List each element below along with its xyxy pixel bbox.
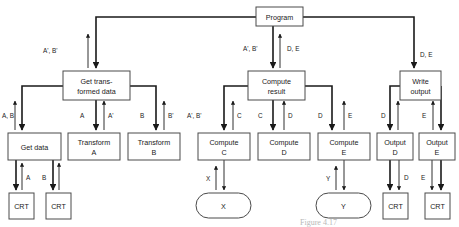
node-gettransformed[interactable]: Get trans- formed data xyxy=(63,71,130,100)
edge-label-computee-out: E xyxy=(348,112,352,119)
computeresult-label-line1: Compute xyxy=(262,77,291,86)
edge-label-outputd: D xyxy=(381,112,386,119)
node-ovaly[interactable]: Y xyxy=(316,193,371,218)
computed-label-line1: Compute xyxy=(269,138,298,147)
compute-oval-lines xyxy=(216,160,344,190)
edge-label-left-up: A', B' xyxy=(43,47,58,54)
edge-label-transa-out: A' xyxy=(108,112,113,119)
computec-label-line2: C xyxy=(221,148,226,157)
edge-label-computee-in: D xyxy=(318,112,323,119)
node-crt3[interactable]: CRT xyxy=(383,193,408,219)
node-computed[interactable]: Compute D xyxy=(258,133,310,160)
figure-caption: Figure 4.17 xyxy=(300,218,337,227)
ovaly-label: Y xyxy=(341,202,346,211)
node-program[interactable]: Program xyxy=(256,7,303,26)
edge-label-crt1: A xyxy=(26,174,31,181)
node-crt4[interactable]: CRT xyxy=(425,193,450,219)
edge-program-to-gettransformed xyxy=(96,17,256,68)
node-computec[interactable]: Compute C xyxy=(198,133,250,160)
program-trunk-lines xyxy=(88,17,414,68)
crt1-label: CRT xyxy=(14,202,29,211)
edge-label-mid-up: D, E xyxy=(287,45,299,52)
outputd-label-line2: D xyxy=(392,148,397,157)
transformb-label-line1: Transform xyxy=(138,138,170,147)
gettransformed-label-line1: Get trans- xyxy=(81,77,114,86)
output-crt-lines xyxy=(390,160,441,190)
edge-label-right-down: D, E xyxy=(420,51,432,58)
writeoutput-label-line2: output xyxy=(411,87,431,96)
crt4-label: CRT xyxy=(430,202,445,211)
edge-label-crt3: D xyxy=(404,174,409,181)
computed-label-line2: D xyxy=(281,148,286,157)
getdata-label: Get data xyxy=(21,143,49,152)
ovalx-label: X xyxy=(221,202,226,211)
edge-label-computed-out: D xyxy=(288,112,293,119)
node-computeresult[interactable]: Compute result xyxy=(248,71,305,100)
node-getdata[interactable]: Get data xyxy=(8,133,61,160)
edge-label-crt4: E xyxy=(421,174,425,181)
edge-label-mid-down: A', B' xyxy=(243,45,258,52)
edge-label-transa-in: A xyxy=(80,112,85,119)
edge-program-to-writeoutput xyxy=(303,17,414,68)
transformb-label-line2: B xyxy=(152,148,157,157)
node-computee[interactable]: Compute E xyxy=(318,133,370,160)
structure-chart-diagram: Program Get trans- formed data Compute r… xyxy=(0,0,459,227)
edge-label-outpute: E xyxy=(422,112,426,119)
edge-label-transb-in: B xyxy=(140,112,144,119)
getdata-crt-lines xyxy=(16,160,59,190)
computec-label-line1: Compute xyxy=(209,138,238,147)
computee-label-line2: E xyxy=(342,148,347,157)
node-crt1[interactable]: CRT xyxy=(9,193,34,219)
node-outputd[interactable]: Output D xyxy=(377,133,413,160)
transforma-label-line2: A xyxy=(92,148,97,157)
edge-gettransformed-to-getdata xyxy=(22,86,63,130)
outpute-label-line1: Output xyxy=(426,138,448,147)
transforma-label-line1: Transform xyxy=(78,138,110,147)
edge-label-computed-in: C xyxy=(258,112,263,119)
program-label: Program xyxy=(266,13,294,22)
edge-writeoutput-to-outputd xyxy=(390,86,400,130)
node-writeoutput[interactable]: Write output xyxy=(400,71,441,100)
edge-label-crt2: B xyxy=(42,174,46,181)
edge-label-getdata: A, B xyxy=(2,112,14,119)
edge-computeresult-to-computee xyxy=(305,86,332,130)
computee-label-line1: Compute xyxy=(329,138,358,147)
gettransformed-label-line2: formed data xyxy=(77,87,115,96)
outputd-label-line1: Output xyxy=(384,138,406,147)
crt2-label: CRT xyxy=(51,202,66,211)
edge-label-transb-out: B' xyxy=(168,112,173,119)
edge-gettransformed-to-transformb xyxy=(130,86,156,130)
edge-label-computec-in: A', B' xyxy=(187,112,202,119)
diagram-canvas: Program Get trans- formed data Compute r… xyxy=(0,0,459,227)
node-transformb[interactable]: Transform B xyxy=(128,133,180,160)
edge-computeresult-to-computec xyxy=(224,86,248,130)
crt3-label: CRT xyxy=(388,202,403,211)
node-outpute[interactable]: Output E xyxy=(419,133,455,160)
writeoutput-label-line1: Write xyxy=(412,77,429,86)
edge-label-x: X xyxy=(206,175,211,182)
node-crt2[interactable]: CRT xyxy=(46,193,71,219)
node-transforma[interactable]: Transform A xyxy=(68,133,120,160)
edge-labels: A', B' A', B' D, E D, E A, B A A' B B' A… xyxy=(2,45,432,182)
outpute-label-line2: E xyxy=(435,148,440,157)
edge-label-computec-out: C xyxy=(237,112,242,119)
node-ovalx[interactable]: X xyxy=(196,193,251,218)
computeresult-label-line2: result xyxy=(268,87,286,96)
edge-label-y: Y xyxy=(326,175,331,182)
